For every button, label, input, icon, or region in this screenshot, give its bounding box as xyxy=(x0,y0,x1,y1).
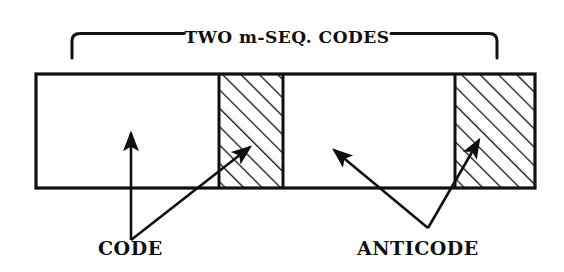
label-anticode: ANTICODE xyxy=(356,237,479,259)
figure-title: TWO m-SEQ. CODES xyxy=(185,27,390,47)
bar-segment-hatched-right xyxy=(455,74,535,188)
m-sequence-code-diagram: TWO m-SEQ. CODES xyxy=(0,0,564,272)
label-code: CODE xyxy=(98,237,163,259)
title-brace-right-icon xyxy=(391,34,497,59)
figure-canvas: TWO m-SEQ. CODES xyxy=(0,0,564,272)
bar-segment-hatched-left xyxy=(219,74,283,188)
title-brace-left-icon xyxy=(72,34,184,59)
